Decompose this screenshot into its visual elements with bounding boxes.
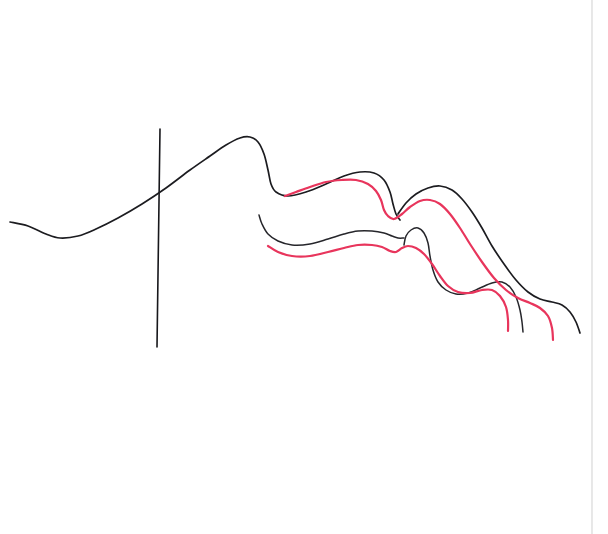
- paper-background: [0, 0, 608, 534]
- hand-drawn-curve-sketch: [0, 0, 608, 534]
- sketch-figure-container: [0, 0, 608, 534]
